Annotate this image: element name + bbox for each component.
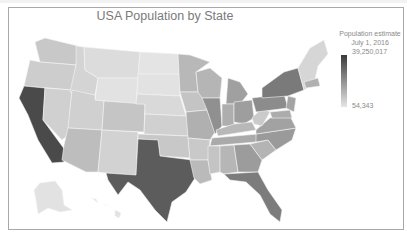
state-nd [138, 52, 179, 74]
state-mi [226, 78, 248, 104]
state-mt [84, 47, 140, 78]
state-wy [95, 78, 138, 104]
state-ar [188, 138, 210, 160]
state-fl [224, 172, 282, 222]
state-nj [286, 96, 296, 112]
state-co [102, 101, 145, 132]
state-ny [262, 68, 304, 98]
state-or [24, 60, 76, 90]
state-sd [137, 74, 180, 96]
state-ak [34, 181, 72, 214]
legend-title-line2: July 1, 2016 [335, 38, 405, 47]
legend-max-label: 39,250,017 [352, 48, 387, 55]
state-az [62, 128, 102, 172]
state-ms [208, 146, 220, 174]
legend-title-line1: Population estimate [335, 29, 405, 38]
state-in [222, 104, 234, 126]
legend-gradient-bar [341, 55, 347, 107]
state-wa [35, 38, 78, 65]
state-oh [234, 100, 254, 124]
legend-min-label: 54,343 [352, 102, 373, 109]
state-hi [92, 198, 121, 218]
legend-title: Population estimate July 1, 2016 [335, 29, 405, 47]
state-md [270, 110, 292, 118]
state-ks [144, 114, 188, 136]
state-nm [98, 130, 138, 175]
state-wi [196, 68, 222, 98]
